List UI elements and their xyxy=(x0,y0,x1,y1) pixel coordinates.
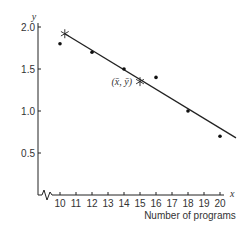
x-tick-label: 19 xyxy=(198,198,210,209)
y-axis-variable: y xyxy=(31,11,37,22)
x-axis-variable: x xyxy=(229,188,235,199)
data-point xyxy=(186,109,190,113)
x-tick-label: 20 xyxy=(214,198,226,209)
x-axis-title: Number of programs xyxy=(144,210,236,221)
x-tick-label: 10 xyxy=(54,198,66,209)
y-tick-label: 1.0 xyxy=(21,106,35,117)
x-tick-label: 14 xyxy=(118,198,130,209)
x-tick-label: 18 xyxy=(182,198,194,209)
x-axis-with-break xyxy=(38,190,224,200)
axes xyxy=(38,23,224,200)
x-tick-label: 17 xyxy=(166,198,178,209)
x-tick-label: 15 xyxy=(134,198,146,209)
data-points xyxy=(58,42,222,138)
y-tick-label: 0.5 xyxy=(21,148,35,159)
data-point xyxy=(122,67,126,71)
data-point xyxy=(90,50,94,54)
y-tick-label: 1.5 xyxy=(21,64,35,75)
x-tick-label: 13 xyxy=(102,198,114,209)
data-point xyxy=(218,134,222,138)
ticks: 0.51.01.52.01011121314151617181920 xyxy=(21,22,226,210)
data-point xyxy=(154,76,158,80)
regression-line-path xyxy=(65,34,236,138)
star-marker-icon xyxy=(61,29,69,38)
scatter-chart: 0.51.01.52.01011121314151617181920 yxNum… xyxy=(0,0,247,230)
x-tick-label: 16 xyxy=(150,198,162,209)
x-tick-label: 11 xyxy=(71,198,82,209)
x-tick-label: 12 xyxy=(86,198,98,209)
labels: yxNumber of programs(x̄, ȳ) xyxy=(31,11,236,221)
y-tick-label: 2.0 xyxy=(21,22,35,33)
data-point xyxy=(58,42,62,46)
mean-point-annotation: (x̄, ȳ) xyxy=(111,76,132,88)
regression-line xyxy=(65,34,236,138)
